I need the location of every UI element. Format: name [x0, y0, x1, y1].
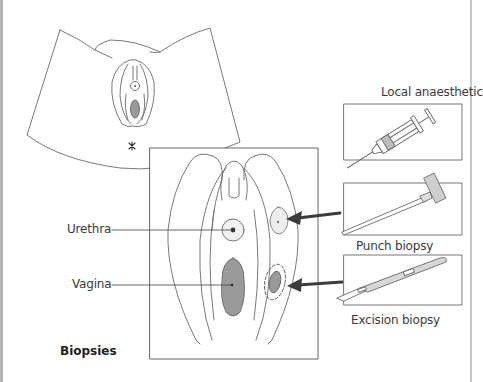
label-vagina: Vagina	[72, 277, 111, 291]
punch-panel	[342, 173, 462, 235]
label-excision-biopsy: Excision biopsy	[351, 313, 440, 327]
label-urethra: Urethra	[67, 222, 111, 236]
label-local-anaesthetic: Local anaesthetic	[381, 85, 483, 99]
inset-frame	[150, 148, 318, 359]
label-punch-biopsy: Punch biopsy	[356, 239, 433, 253]
excision-panel	[337, 255, 462, 305]
syringe-panel	[343, 104, 462, 175]
figure-title: Biopsies	[60, 344, 117, 358]
